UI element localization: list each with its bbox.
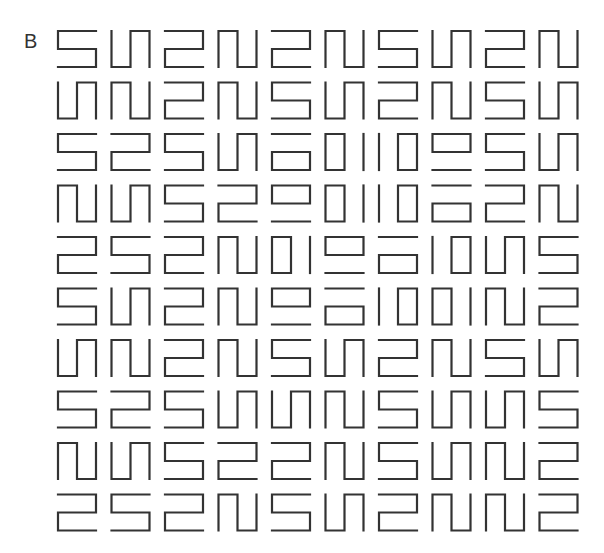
glyph-cell-two-shape xyxy=(112,134,150,170)
glyph-cell-cup-left-cap-right xyxy=(326,83,364,119)
glyph-cell-line-left-rect-right xyxy=(433,237,471,273)
glyph-cell-five-shape xyxy=(486,340,524,376)
glyph-cell-two-shape xyxy=(379,495,417,531)
glyph-cell-two-shape xyxy=(58,495,96,531)
glyph-cell-cup-left-cap-right xyxy=(486,237,524,273)
glyph-cell-cup-left-cap-right xyxy=(272,392,310,428)
glyph-cell-cup-left-cap-right xyxy=(540,340,578,376)
glyph-cell-line-top-rect-bottom xyxy=(379,237,417,273)
glyph-cell-line-left-rect-right xyxy=(379,186,417,222)
glyph-cell-two-shape xyxy=(486,186,524,222)
glyph-cell-five-shape xyxy=(58,289,96,325)
glyph-cell-cup-left-cap-right xyxy=(219,134,257,170)
glyph-cell-cap-left-cup-right xyxy=(486,289,524,325)
glyph-cell-cap-left-cup-right xyxy=(219,31,257,67)
glyph-cell-rect-left-line-right xyxy=(326,134,364,170)
glyph-grid-canvas xyxy=(0,0,604,553)
glyph-cell-two-shape xyxy=(219,186,257,222)
glyph-cell-two-shape xyxy=(540,495,578,531)
glyph-cell-two-shape xyxy=(486,31,524,67)
glyph-cell-rect-left-line-right xyxy=(326,186,364,222)
glyph-cell-line-top-rect-bottom xyxy=(433,186,471,222)
glyph-cell-rect-left-line-right xyxy=(272,237,310,273)
glyph-cell-cup-left-cap-right xyxy=(540,83,578,119)
glyph-cell-line-left-rect-right xyxy=(379,134,417,170)
glyph-cell-cap-left-cup-right xyxy=(326,392,364,428)
glyph-cell-two-shape xyxy=(272,443,310,479)
glyph-cell-cup-left-cap-right xyxy=(540,134,578,170)
glyph-cell-cap-left-cup-right xyxy=(486,495,524,531)
glyph-cell-cup-left-cap-right xyxy=(219,392,257,428)
glyph-cell-cup-left-cap-right xyxy=(112,186,150,222)
glyph-cell-cup-left-cap-right xyxy=(486,392,524,428)
glyph-cell-rect-top-line-bottom xyxy=(326,237,364,273)
glyph-cell-cap-left-cup-right xyxy=(540,31,578,67)
glyph-cell-cap-left-cup-right xyxy=(486,443,524,479)
glyph-cell-cap-left-cup-right xyxy=(219,495,257,531)
glyph-cell-line-top-rect-bottom xyxy=(326,289,364,325)
glyph-cell-two-shape xyxy=(165,289,203,325)
glyph-cell-cup-left-cap-right xyxy=(58,340,96,376)
glyph-cell-five-shape xyxy=(165,443,203,479)
glyph-cell-five-shape xyxy=(272,495,310,531)
glyph-cell-cap-left-cup-right xyxy=(58,443,96,479)
glyph-cell-two-shape xyxy=(379,340,417,376)
glyph-cell-five-shape xyxy=(379,443,417,479)
glyph-cell-two-shape xyxy=(58,237,96,273)
glyph-cell-rect-left-line-right xyxy=(433,289,471,325)
glyph-cell-cup-left-cap-right xyxy=(112,443,150,479)
glyph-cell-rect-top-line-bottom xyxy=(433,134,471,170)
glyph-cell-two-shape xyxy=(165,340,203,376)
glyph-cell-two-shape xyxy=(219,443,257,479)
glyph-cell-cup-left-cap-right xyxy=(112,289,150,325)
glyph-cell-cap-left-cup-right xyxy=(433,83,471,119)
glyph-cell-cap-left-cup-right xyxy=(219,340,257,376)
glyph-grid xyxy=(0,0,604,553)
glyph-cell-five-shape xyxy=(272,340,310,376)
glyph-cell-two-shape xyxy=(112,392,150,428)
glyph-cell-cap-left-cup-right xyxy=(58,186,96,222)
glyph-cell-cap-left-cup-right xyxy=(219,237,257,273)
glyph-cell-five-shape xyxy=(486,134,524,170)
glyph-cell-two-shape xyxy=(540,443,578,479)
glyph-cell-cup-left-cap-right xyxy=(58,83,96,119)
glyph-cell-five-shape xyxy=(379,392,417,428)
glyph-cell-two-shape xyxy=(165,83,203,119)
glyph-cell-five-shape xyxy=(165,392,203,428)
glyph-cell-rect-top-line-bottom xyxy=(272,186,310,222)
glyph-cell-line-top-rect-bottom xyxy=(272,134,310,170)
glyph-cell-five-shape xyxy=(58,392,96,428)
glyph-cell-five-shape xyxy=(540,392,578,428)
glyph-cell-five-shape xyxy=(112,495,150,531)
glyph-cell-cap-left-cup-right xyxy=(326,443,364,479)
glyph-cell-cup-left-cap-right xyxy=(433,443,471,479)
glyph-cell-five-shape xyxy=(379,31,417,67)
glyph-cell-rect-top-line-bottom xyxy=(272,289,310,325)
glyph-cell-line-left-rect-right xyxy=(379,289,417,325)
glyph-cell-cup-left-cap-right xyxy=(326,495,364,531)
glyph-cell-five-shape xyxy=(165,134,203,170)
glyph-cell-two-shape xyxy=(540,289,578,325)
glyph-cell-cap-left-cup-right xyxy=(112,83,150,119)
glyph-cell-five-shape xyxy=(486,83,524,119)
glyph-cell-two-shape xyxy=(165,495,203,531)
glyph-cell-two-shape xyxy=(165,237,203,273)
glyph-cell-cup-left-cap-right xyxy=(326,340,364,376)
glyph-cell-cap-left-cup-right xyxy=(219,289,257,325)
glyph-cell-cap-left-cup-right xyxy=(433,495,471,531)
glyph-cell-two-shape xyxy=(165,31,203,67)
glyph-cell-five-shape xyxy=(58,134,96,170)
glyph-cell-cap-left-cup-right xyxy=(219,83,257,119)
glyph-cell-cup-left-cap-right xyxy=(433,392,471,428)
glyph-cell-cap-left-cup-right xyxy=(326,31,364,67)
glyph-cell-two-shape xyxy=(379,83,417,119)
glyph-cell-two-shape xyxy=(272,31,310,67)
glyph-cell-cup-left-cap-right xyxy=(112,31,150,67)
glyph-cell-five-shape xyxy=(540,237,578,273)
glyph-cell-cup-left-cap-right xyxy=(433,31,471,67)
glyph-cell-cap-left-cup-right xyxy=(112,340,150,376)
glyph-cell-five-shape xyxy=(58,31,96,67)
glyph-cell-five-shape xyxy=(165,186,203,222)
glyph-cell-five-shape xyxy=(112,237,150,273)
glyph-cell-five-shape xyxy=(272,83,310,119)
